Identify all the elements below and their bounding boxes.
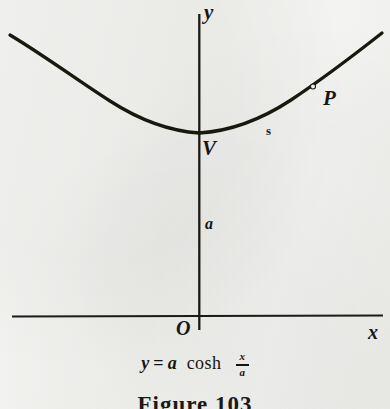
origin-label: O <box>176 318 190 338</box>
parameter-a-label: a <box>205 216 213 232</box>
plot-canvas <box>0 0 390 409</box>
equation-row: y = a cosh x a <box>141 350 248 377</box>
x-axis-label: x <box>368 322 378 342</box>
vertex-label: V <box>202 138 216 159</box>
catenary-figure: y x O V P a s y = a cosh x a Figure 103 <box>0 0 390 409</box>
point-p-label: P <box>323 88 336 109</box>
equation-function-name: cosh <box>187 353 222 374</box>
arc-length-label: s <box>266 124 271 137</box>
equation-fraction-numerator: x <box>237 351 247 363</box>
x-axis-line <box>12 316 383 317</box>
y-axis-label: y <box>204 2 213 23</box>
equation-fraction: x a <box>236 351 249 378</box>
catenary-curve <box>10 33 382 133</box>
equation-lhs: y <box>141 353 149 374</box>
point-p-marker <box>311 84 316 89</box>
figure-number: Figure 103 <box>0 392 390 409</box>
equation-equals-sign: = <box>153 353 163 374</box>
equation-fraction-denominator: a <box>237 367 247 379</box>
caption-equation: y = a cosh x a <box>0 350 390 377</box>
equation-coefficient: a <box>168 353 177 374</box>
